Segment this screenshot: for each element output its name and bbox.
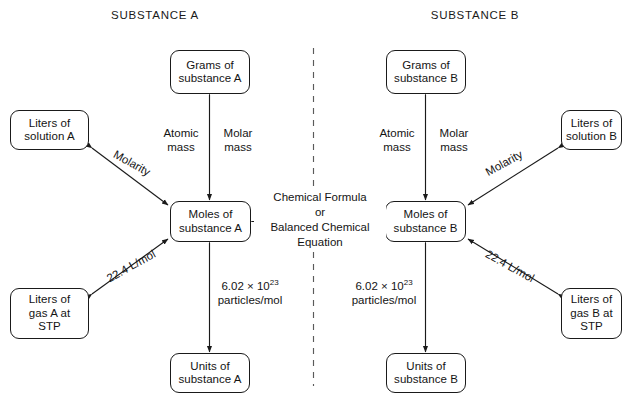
node-moles-b-line1: Moles of (394, 208, 458, 222)
node-gas-b-line1: Liters of (570, 293, 613, 307)
node-gas-a-line1: Liters of (29, 293, 70, 307)
node-grams-b-line1: Grams of (394, 59, 458, 73)
label-center-line3: Balanced Chemical (256, 220, 384, 235)
node-units-a-line2: substance A (178, 373, 241, 387)
node-moles-a-line1: Moles of (179, 208, 242, 222)
label-molar-mass-a-line2: mass (213, 140, 263, 154)
node-moles-of-substance-b[interactable]: Moles of substance B (385, 201, 466, 242)
label-avogadro-a-coeff: 6.02 × 10 (221, 280, 269, 292)
node-solution-a-line2: solution A (24, 130, 74, 144)
node-gas-a-line3: STP (29, 320, 70, 334)
node-units-a-line1: Units of (178, 360, 241, 374)
label-avogadro-a-exponent: 23 (270, 278, 279, 287)
label-avogadro-a-line2: particles/mol (198, 293, 302, 307)
label-atomic-mass-b-line2: mass (371, 140, 423, 154)
node-units-of-substance-b[interactable]: Units of substance B (386, 353, 466, 393)
label-chemical-formula-or-balanced-equation: Chemical Formula or Balanced Chemical Eq… (254, 190, 386, 250)
node-moles-a-line2: substance A (179, 222, 242, 236)
label-center-line1: Chemical Formula (256, 190, 384, 205)
label-molarity-b: Molarity (473, 142, 534, 184)
label-avogadro-b-exponent: 23 (404, 278, 413, 287)
label-molar-mass-a: Molar mass (213, 126, 263, 154)
node-solution-a-line1: Liters of (24, 117, 74, 131)
node-liters-of-solution-b[interactable]: Liters of solution B (561, 110, 622, 150)
heading-substance-b: SUBSTANCE B (415, 9, 535, 21)
node-moles-of-substance-a[interactable]: Moles of substance A (170, 201, 251, 242)
label-molar-mass-a-line1: Molar (213, 126, 263, 140)
label-molar-mass-b-line2: mass (429, 140, 479, 154)
label-center-line2: or (256, 205, 384, 220)
node-grams-a-line2: substance A (178, 72, 241, 86)
node-liters-of-gas-a-at-stp[interactable]: Liters of gas A at STP (10, 288, 89, 339)
label-atomic-mass-b: Atomic mass (371, 126, 423, 154)
label-avogadro-b: 6.02 × 1023 particles/mol (332, 279, 436, 307)
label-avogadro-a: 6.02 × 1023 particles/mol (198, 279, 302, 307)
node-gas-a-line2: gas A at (29, 307, 70, 321)
label-center-line4: Equation (256, 235, 384, 250)
label-avogadro-b-line2: particles/mol (332, 293, 436, 307)
label-molarity-a: Molarity (101, 142, 162, 184)
label-molar-mass-b-line1: Molar (429, 126, 479, 140)
label-avogadro-b-line1: 6.02 × 1023 (332, 279, 436, 293)
node-units-of-substance-a[interactable]: Units of substance A (170, 353, 250, 393)
node-solution-b-line2: solution B (566, 130, 617, 144)
stoichiometry-diagram: SUBSTANCE A SUBSTANCE B Grams of substan… (0, 0, 629, 398)
node-units-b-line2: substance B (394, 373, 458, 387)
label-avogadro-b-coeff: 6.02 × 10 (355, 280, 403, 292)
node-solution-b-line1: Liters of (566, 117, 617, 131)
heading-substance-a: SUBSTANCE A (95, 9, 215, 21)
label-molar-mass-b: Molar mass (429, 126, 479, 154)
node-gas-b-line3: STP (570, 320, 613, 334)
label-atomic-mass-a-line1: Atomic (155, 126, 207, 140)
label-atomic-mass-a-line2: mass (155, 140, 207, 154)
node-grams-of-substance-b[interactable]: Grams of substance B (386, 50, 466, 94)
node-gas-b-line2: gas B at (570, 307, 613, 321)
label-avogadro-a-line1: 6.02 × 1023 (198, 279, 302, 293)
node-units-b-line1: Units of (394, 360, 458, 374)
label-atomic-mass-a: Atomic mass (155, 126, 207, 154)
node-grams-of-substance-a[interactable]: Grams of substance A (170, 50, 250, 94)
label-molar-volume-a: 22.4 L/mol (96, 242, 166, 289)
node-liters-of-gas-b-at-stp[interactable]: Liters of gas B at STP (561, 288, 622, 339)
node-moles-b-line2: substance B (394, 222, 458, 236)
node-liters-of-solution-a[interactable]: Liters of solution A (10, 110, 89, 150)
node-grams-a-line1: Grams of (178, 59, 241, 73)
label-molar-volume-b: 22.4 L/mol (475, 242, 545, 289)
label-atomic-mass-b-line1: Atomic (371, 126, 423, 140)
node-grams-b-line2: substance B (394, 72, 458, 86)
